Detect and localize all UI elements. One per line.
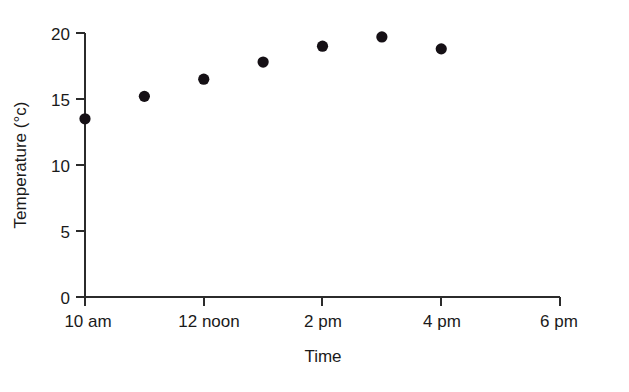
x-axis-tick-labels: 10 am 12 noon 2 pm 4 pm 6 pm (64, 312, 578, 331)
y-axis: 20 15 10 5 0 Temperature (°c) (11, 25, 85, 308)
x-axis-title: Time (304, 347, 341, 366)
y-axis-tick-labels: 20 15 10 5 0 (51, 25, 70, 308)
x-axis: 10 am 12 noon 2 pm 4 pm 6 pm Time (64, 297, 578, 366)
x-tick-label-2pm: 2 pm (304, 312, 342, 331)
y-axis-title: Temperature (°c) (11, 102, 30, 229)
plot-area: 20 15 10 5 0 Temperature (°c) 10 am 12 n… (0, 0, 629, 392)
data-point (258, 56, 269, 67)
x-tick-label-6pm: 6 pm (540, 312, 578, 331)
y-tick-label-15: 15 (51, 91, 70, 110)
x-tick-label-4pm: 4 pm (423, 312, 461, 331)
x-tick-label-10am: 10 am (64, 312, 111, 331)
y-tick-label-20: 20 (51, 25, 70, 44)
temperature-vs-time-scatter-chart: 20 15 10 5 0 Temperature (°c) 10 am 12 n… (0, 0, 629, 392)
data-point (79, 113, 90, 124)
y-tick-label-5: 5 (61, 223, 70, 242)
x-tick-label-12noon: 12 noon (178, 312, 239, 331)
y-axis-ticks (76, 33, 85, 297)
y-tick-label-10: 10 (51, 157, 70, 176)
data-point (436, 43, 447, 54)
x-axis-ticks (85, 297, 560, 306)
data-point (139, 91, 150, 102)
data-point (317, 41, 328, 52)
data-point (198, 74, 209, 85)
data-series-temperature (79, 31, 446, 124)
data-point (376, 31, 387, 42)
y-tick-label-0: 0 (61, 289, 70, 308)
